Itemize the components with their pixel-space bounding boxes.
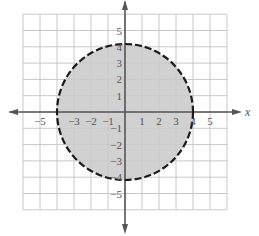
x-tick-label: 1 — [139, 115, 145, 127]
x-tick-label: −5 — [34, 115, 46, 127]
y-axis-down-arrow-icon — [122, 224, 128, 234]
x-tick-label: 2 — [156, 115, 162, 127]
y-tick-label: −3 — [110, 155, 122, 167]
y-tick-label: 5 — [117, 25, 123, 37]
x-tick-label: −2 — [85, 115, 97, 127]
coordinate-plane: −5−3−2−11234554321−1−2−3−4−5 x — [0, 0, 259, 236]
y-axis-up-arrow-icon — [122, 0, 128, 10]
y-tick-label: 4 — [117, 41, 123, 53]
x-axis-left-arrow-icon — [8, 109, 18, 115]
y-tick-label: −2 — [110, 139, 122, 151]
y-tick-label: −1 — [110, 122, 122, 134]
y-tick-label: −5 — [110, 188, 122, 200]
x-tick-label: 4 — [190, 115, 196, 127]
x-tick-label: −3 — [68, 115, 80, 127]
y-tick-label: 1 — [117, 90, 123, 102]
y-tick-label: 3 — [117, 57, 123, 69]
y-tick-label: −4 — [110, 171, 122, 183]
x-tick-label: 5 — [207, 115, 213, 127]
x-axis-label: x — [244, 105, 251, 119]
y-tick-label: 2 — [117, 73, 123, 85]
x-axis-right-arrow-icon — [232, 109, 242, 115]
x-tick-label: 3 — [173, 115, 179, 127]
